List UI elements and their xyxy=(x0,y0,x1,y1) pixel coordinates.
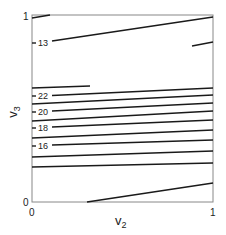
contour-line-18 xyxy=(52,120,213,127)
contour-label-20: 20 xyxy=(38,107,48,117)
contour-line xyxy=(192,42,213,46)
contour-lines xyxy=(32,15,213,202)
contour-line xyxy=(87,183,213,202)
x-axis-label: v2 xyxy=(115,213,127,230)
y-tick-1: 1 xyxy=(23,11,29,22)
contour-line xyxy=(32,130,213,138)
contour-line xyxy=(32,86,90,88)
contour-label-16: 16 xyxy=(38,141,48,151)
contour-chart: 13 22 20 18 16 1 0 0 1 v2 v3 xyxy=(0,0,226,235)
contour-line xyxy=(32,151,213,157)
plot-frame xyxy=(32,15,213,202)
contour-line-22 xyxy=(52,88,213,96)
x-tick-1: 1 xyxy=(210,207,216,218)
contour-line-16 xyxy=(52,140,213,145)
contour-label-13: 13 xyxy=(38,38,48,48)
y-axis-label-group: v3 xyxy=(5,106,22,118)
contour-line xyxy=(32,111,213,121)
x-tick-0: 0 xyxy=(29,207,35,218)
contour-label-18: 18 xyxy=(38,123,48,133)
contour-label-22: 22 xyxy=(38,91,48,101)
contour-line-13 xyxy=(52,17,213,41)
y-axis-label: v3 xyxy=(5,106,22,118)
contour-line xyxy=(32,95,213,104)
contour-line-20 xyxy=(52,103,213,111)
contour-line xyxy=(32,163,213,167)
